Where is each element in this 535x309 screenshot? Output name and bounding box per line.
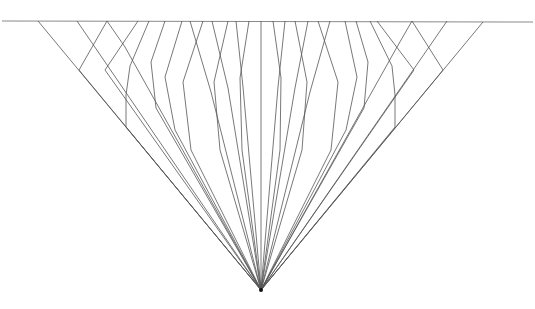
ray-line	[261, 21, 443, 290]
ray-lines	[38, 21, 483, 290]
ray-line	[261, 21, 330, 290]
ray-diagram-svg	[0, 0, 535, 309]
ray-line	[261, 21, 368, 290]
ray-line	[212, 21, 261, 290]
ray-line	[151, 21, 261, 290]
ray-line	[261, 21, 308, 290]
apex-point	[259, 288, 263, 292]
ray-line	[77, 21, 261, 290]
ray-line	[165, 21, 261, 290]
top-baseline	[2, 21, 533, 22]
ray-line	[190, 21, 261, 290]
ray-diagram	[0, 0, 535, 309]
ray-line	[261, 21, 357, 290]
